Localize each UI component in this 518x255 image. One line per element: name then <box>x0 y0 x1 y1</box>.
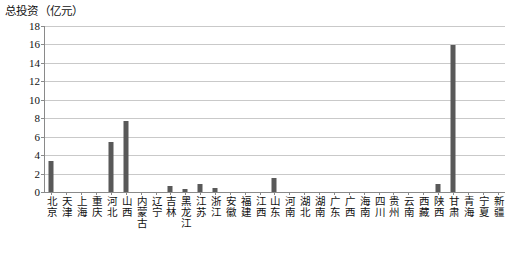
x-axis-tick-label: 河南 <box>284 196 295 218</box>
x-axis-label-slot: 甘肃 <box>446 196 461 254</box>
x-axis-label-slot: 青海 <box>460 196 475 254</box>
bar-slot <box>103 26 118 192</box>
x-axis-tick-mark <box>185 192 186 195</box>
bar-slot <box>282 26 297 192</box>
bar-slot <box>446 26 461 192</box>
x-axis-tick-label: 宁夏 <box>477 196 488 218</box>
bar-slot <box>208 26 223 192</box>
bar[interactable] <box>450 45 455 192</box>
bar-slot <box>297 26 312 192</box>
x-axis-tick-mark <box>156 192 157 195</box>
y-axis-tick-label: 16 <box>29 39 40 50</box>
bar-slot <box>44 26 59 192</box>
chart-title: 总投资（亿元） <box>5 2 83 18</box>
y-axis-tick-label: 6 <box>35 131 41 142</box>
bar-slot <box>416 26 431 192</box>
bar-slot <box>178 26 193 192</box>
x-axis-label-slot: 天津 <box>59 196 74 254</box>
x-axis-label-slot: 上海 <box>74 196 89 254</box>
x-axis-label-slot: 宁夏 <box>475 196 490 254</box>
x-axis-tick-mark <box>423 192 424 195</box>
x-axis-tick-label: 重庆 <box>91 196 102 218</box>
bar-chart: 总投资（亿元） 024681012141618 北京天津上海重庆河北山西内蒙古辽… <box>0 0 518 255</box>
x-axis-tick-mark <box>438 192 439 195</box>
x-axis-tick-label: 陕西 <box>433 196 444 218</box>
x-axis-tick-mark <box>51 192 52 195</box>
x-axis-label-slot: 四川 <box>371 196 386 254</box>
y-axis-tick-label: 8 <box>35 113 41 124</box>
bar-slot <box>386 26 401 192</box>
x-axis-tick-label: 湖南 <box>314 196 325 218</box>
x-axis-tick-mark <box>126 192 127 195</box>
x-axis-tick-label: 浙江 <box>209 196 220 218</box>
x-axis-label-slot: 陕西 <box>431 196 446 254</box>
x-axis-tick-label: 广西 <box>343 196 354 218</box>
bar-slot <box>327 26 342 192</box>
x-axis-tick-label: 吉林 <box>165 196 176 218</box>
x-axis-labels: 北京天津上海重庆河北山西内蒙古辽宁吉林黑龙江江苏浙江安徽福建江西山东河南湖北湖南… <box>44 196 505 254</box>
x-axis-label-slot: 云南 <box>401 196 416 254</box>
x-axis-label-slot: 西藏 <box>416 196 431 254</box>
bar[interactable] <box>123 121 128 192</box>
x-axis-tick-mark <box>111 192 112 195</box>
y-axis-tick-label: 12 <box>29 76 40 87</box>
x-axis-tick-mark <box>468 192 469 195</box>
x-axis-tick-label: 河北 <box>105 196 116 218</box>
x-axis-tick-mark <box>215 192 216 195</box>
x-axis-tick-mark <box>141 192 142 195</box>
x-axis-tick-mark <box>319 192 320 195</box>
x-axis-tick-mark <box>364 192 365 195</box>
x-axis-tick-label: 海南 <box>358 196 369 218</box>
x-axis-tick-mark <box>200 192 201 195</box>
bar-slot <box>59 26 74 192</box>
bar[interactable] <box>436 184 441 192</box>
y-axis-tick-label: 2 <box>35 168 41 179</box>
x-axis-tick-label: 山西 <box>120 196 131 218</box>
x-axis-label-slot: 贵州 <box>386 196 401 254</box>
bar[interactable] <box>272 178 277 192</box>
x-axis-label-slot: 浙江 <box>208 196 223 254</box>
x-axis-tick-mark <box>96 192 97 195</box>
y-axis-tick-mark <box>41 192 44 193</box>
x-axis-tick-mark <box>304 192 305 195</box>
x-axis-tick-label: 安徽 <box>224 196 235 218</box>
x-axis-label-slot: 新疆 <box>490 196 505 254</box>
bar-slot <box>118 26 133 192</box>
x-axis-tick-mark <box>453 192 454 195</box>
y-axis-tick-label: 0 <box>35 187 41 198</box>
bar-slot <box>133 26 148 192</box>
bar-slot <box>431 26 446 192</box>
bar[interactable] <box>108 142 113 192</box>
x-axis-tick-mark <box>289 192 290 195</box>
x-axis-tick-label: 天津 <box>61 196 72 218</box>
x-axis-tick-label: 湖北 <box>299 196 310 218</box>
x-axis-tick-label: 内蒙古 <box>135 196 146 229</box>
bar-slot <box>401 26 416 192</box>
y-axis-tick-label: 4 <box>35 150 41 161</box>
x-axis-tick-label: 青海 <box>462 196 473 218</box>
bar-slot <box>460 26 475 192</box>
x-axis-label-slot: 湖南 <box>312 196 327 254</box>
x-axis-tick-mark <box>483 192 484 195</box>
x-axis-label-slot: 河北 <box>103 196 118 254</box>
x-axis-label-slot: 福建 <box>237 196 252 254</box>
bar-slot <box>371 26 386 192</box>
x-axis-tick-mark <box>408 192 409 195</box>
x-axis-tick-label: 云南 <box>403 196 414 218</box>
x-axis-tick-label: 甘肃 <box>447 196 458 218</box>
x-axis-label-slot: 海南 <box>356 196 371 254</box>
x-axis-tick-mark <box>498 192 499 195</box>
bar[interactable] <box>49 161 54 192</box>
x-axis-tick-mark <box>260 192 261 195</box>
plot-area: 024681012141618 <box>44 26 505 192</box>
x-axis-tick-mark <box>230 192 231 195</box>
x-axis-tick-label: 新疆 <box>492 196 503 218</box>
x-axis-tick-label: 广东 <box>328 196 339 218</box>
bar-slot <box>148 26 163 192</box>
bar-slot <box>74 26 89 192</box>
x-axis-tick-label: 贵州 <box>388 196 399 218</box>
x-axis-tick-mark <box>274 192 275 195</box>
bar[interactable] <box>198 184 203 192</box>
x-axis-tick-label: 江西 <box>254 196 265 218</box>
x-axis-label-slot: 山西 <box>118 196 133 254</box>
